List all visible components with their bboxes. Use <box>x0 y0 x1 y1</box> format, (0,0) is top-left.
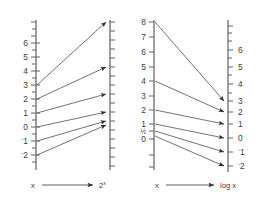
tick-label: 5 <box>141 62 146 72</box>
caption-output-label: 2x <box>99 180 106 190</box>
caption-output-label: log x <box>220 181 236 190</box>
tick-label-negative: -2 <box>21 149 28 160</box>
tick-label: 5 <box>238 62 243 72</box>
tick-label: 0 <box>23 122 28 132</box>
caption-input-label: x <box>155 181 159 190</box>
tick-label: 1 <box>238 119 243 129</box>
caption-input-label: x <box>31 181 35 190</box>
map-line <box>37 121 106 141</box>
logarithm-mapping-lines <box>155 22 224 166</box>
exponential-mapping-lines <box>37 22 106 155</box>
panel-exponential: 6 5 4 3 2 1 0 -1 -2 <box>0 0 131 201</box>
exponential-caption: x 2x <box>31 180 106 190</box>
exponential-input-labels: 6 5 4 3 2 1 0 -1 -2 <box>21 38 28 160</box>
logarithm-diagram: 8 7 6 5 4 3 2 1 ½ 0 <box>131 0 262 201</box>
tick-value: 1 <box>23 136 28 146</box>
tick-label: 4 <box>141 76 146 86</box>
logarithm-output-axis: 6 5 4 3 2 1 0 -1 -2 <box>228 20 245 172</box>
tick-value: 2 <box>240 161 245 171</box>
logarithm-caption: x log x <box>155 181 236 190</box>
tick-label: 6 <box>141 47 146 57</box>
map-line <box>155 81 224 112</box>
tick-label: 5 <box>23 52 28 62</box>
tick-label: 3 <box>23 80 28 90</box>
map-line <box>155 136 224 166</box>
tick-label: 2 <box>23 94 28 104</box>
tick-value: 2 <box>23 150 28 160</box>
map-line <box>37 94 106 113</box>
logarithm-input-axis: 8 7 6 5 4 3 2 1 ½ 0 <box>141 17 155 170</box>
tick-label: 2 <box>238 107 243 117</box>
exponential-diagram: 6 5 4 3 2 1 0 -1 -2 <box>0 0 131 201</box>
tick-label: 7 <box>141 32 146 42</box>
tick-label: 4 <box>238 79 243 89</box>
logarithm-input-labels: 8 7 6 5 4 3 2 1 ½ 0 <box>141 17 147 144</box>
tick-label: 2 <box>141 105 146 115</box>
tick-value: 1 <box>240 147 245 157</box>
exponential-input-axis: 6 5 4 3 2 1 0 -1 -2 <box>21 20 40 170</box>
tick-label: 3 <box>141 91 146 101</box>
tick-label: 0 <box>141 134 146 144</box>
exponential-input-ticks <box>31 22 40 162</box>
tick-label: 1 <box>23 108 28 118</box>
panel-logarithm: 8 7 6 5 4 3 2 1 ½ 0 <box>131 0 262 201</box>
tick-label: 0 <box>238 133 243 143</box>
map-line <box>155 124 224 138</box>
tick-label-negative: -1 <box>21 135 28 146</box>
tick-label: 8 <box>141 17 146 27</box>
logarithm-output-labels: 6 5 4 3 2 1 0 -1 -2 <box>238 45 245 171</box>
caption-exponent: x <box>103 180 106 186</box>
map-line <box>37 112 106 127</box>
tick-label: 3 <box>238 96 243 106</box>
map-line <box>155 110 224 124</box>
tick-label: 4 <box>23 66 28 76</box>
exponential-output-axis <box>110 20 115 170</box>
tick-label: 6 <box>238 45 243 55</box>
tick-label-negative: -1 <box>238 146 245 157</box>
tick-label-negative: -2 <box>238 160 245 171</box>
map-line <box>155 22 224 101</box>
map-line <box>37 125 106 155</box>
logarithm-input-ticks <box>149 22 154 167</box>
map-line <box>155 131 224 152</box>
map-line <box>37 22 106 85</box>
exponential-output-ticks <box>110 22 115 166</box>
tick-label: 6 <box>23 38 28 48</box>
nomogram-figure: 6 5 4 3 2 1 0 -1 -2 <box>0 0 262 201</box>
logarithm-output-ticks <box>228 26 233 166</box>
map-line <box>37 67 106 99</box>
